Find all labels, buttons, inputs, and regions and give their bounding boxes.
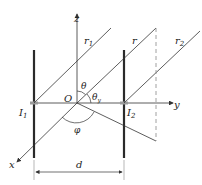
label-y: y (173, 99, 180, 110)
ray-r1 (34, 28, 111, 103)
label-theta: θ (81, 81, 87, 91)
label-x: x (9, 159, 15, 170)
label-phi: φ (74, 125, 81, 135)
label-origin: O (64, 93, 72, 104)
label-r1: r1 (84, 35, 93, 48)
label-r: r (132, 35, 138, 46)
label-d: d (76, 159, 82, 170)
two-dipole-array-diagram: z y x O r1 r r2 θ θy φ I1 I2 d (0, 0, 202, 185)
label-I2: I2 (126, 107, 136, 120)
label-r2: r2 (175, 35, 185, 48)
theta-arc (77, 91, 86, 95)
projection-line (77, 103, 156, 141)
label-z: z (73, 13, 80, 24)
label-I1: I1 (18, 107, 27, 120)
phi-arc (62, 112, 94, 123)
theta-y-arc (87, 94, 91, 103)
label-theta-y: θy (92, 92, 101, 104)
